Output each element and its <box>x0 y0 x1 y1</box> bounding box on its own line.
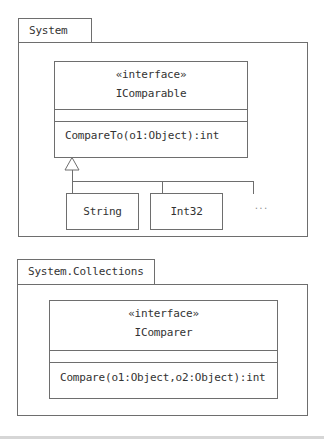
operation-compare: Compare(o1:Object,o2:Object):int <box>60 371 266 384</box>
operations-divider <box>50 362 277 363</box>
operation-compareto: CompareTo(o1:Object):int <box>65 129 219 142</box>
class-int32-name: Int32 <box>151 205 222 218</box>
realization-bus <box>72 181 254 182</box>
interface-icomparable-stereotype: «interface» <box>55 68 247 81</box>
realization-arrowhead-icon <box>64 157 80 171</box>
package-system-label: System <box>29 24 68 37</box>
attributes-divider <box>55 109 247 110</box>
more-implementors-ellipsis: ... <box>254 202 268 211</box>
class-string-name: String <box>67 205 138 218</box>
package-system-tab: System <box>18 18 92 43</box>
package-collections-label: System.Collections <box>28 265 144 278</box>
realization-stem <box>72 170 73 194</box>
interface-icomparer: «interface» IComparer Compare(o1:Object,… <box>49 300 278 399</box>
realization-branch-more <box>253 181 254 194</box>
interface-icomparable-name: IComparable <box>55 87 247 100</box>
attributes-divider <box>50 350 277 351</box>
package-collections-tab: System.Collections <box>17 259 155 285</box>
interface-icomparer-stereotype: «interface» <box>50 307 277 320</box>
operations-divider <box>55 121 247 122</box>
interface-icomparer-name: IComparer <box>50 326 277 339</box>
interface-icomparable: «interface» IComparable CompareTo(o1:Obj… <box>54 61 248 158</box>
class-int32: Int32 <box>150 193 223 230</box>
class-string: String <box>66 193 139 230</box>
